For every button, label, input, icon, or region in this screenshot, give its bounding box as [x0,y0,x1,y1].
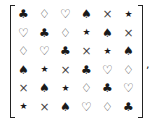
spade-icon: ♠ [55,98,76,117]
star-icon: ★ [97,42,118,61]
trailing-comma: , [146,58,150,71]
club-icon: ♣ [76,61,97,80]
club-icon: ♣ [55,42,76,61]
star-icon: ★ [34,61,55,80]
star-icon: ★ [118,5,139,24]
cross-icon: × [76,42,97,61]
diamond-icon: ♢ [76,79,97,98]
cross-icon: × [55,61,76,80]
diamond-icon: ♢ [34,5,55,24]
cross-icon: × [97,5,118,24]
club-icon: ♣ [97,79,118,98]
diamond-icon: ♢ [13,42,34,61]
star-icon: ★ [13,98,34,117]
diamond-icon: ♢ [118,61,139,80]
heart-icon: ♡ [34,42,55,61]
right-bracket [138,5,143,118]
diamond-icon: ♢ [97,98,118,117]
club-icon: ♣ [13,5,34,24]
cross-icon: × [34,98,55,117]
heart-icon: ♡ [76,98,97,117]
heart-icon: ♡ [13,24,34,43]
spade-icon: ♠ [118,42,139,61]
spade-icon: ♠ [76,5,97,24]
heart-icon: ♡ [55,5,76,24]
spade-icon: ♠ [34,79,55,98]
star-icon: ★ [76,24,97,43]
club-icon: ♣ [34,24,55,43]
heart-icon: ♡ [97,61,118,80]
spade-icon: ♠ [97,24,118,43]
star-icon: ★ [55,79,76,98]
symbol-matrix: ♣♢♡♠×★♡♣♢★♠×♢♡♣×★♠♠★×♣♡♢×♠★♢♣♡★×♠♡♢♣ [13,5,139,116]
cross-icon: × [118,24,139,43]
spade-icon: ♠ [13,61,34,80]
diamond-icon: ♢ [55,24,76,43]
heart-icon: ♡ [118,79,139,98]
club-icon: ♣ [118,98,139,117]
cross-icon: × [13,79,34,98]
